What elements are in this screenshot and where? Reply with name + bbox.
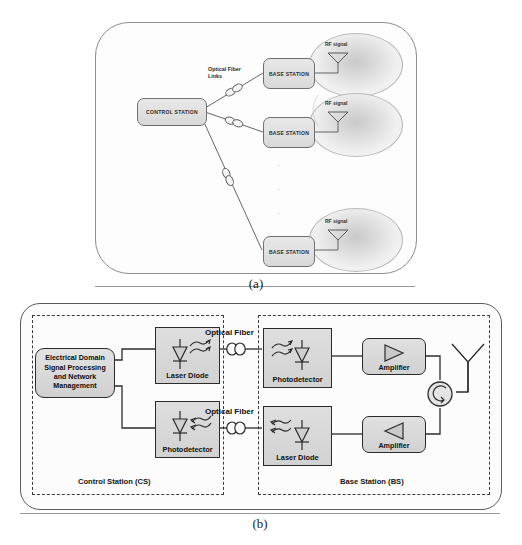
base-station-label: BASE STATION (269, 71, 309, 77)
base-station-label: BASE STATION (269, 249, 309, 255)
panel-a-link-layer (0, 0, 522, 300)
bs-laser-diode-block[interactable]: Laser Diode (263, 406, 332, 466)
edsp-line-4: Management (44, 382, 106, 391)
panel-b-wire-layer (0, 300, 522, 545)
panel-a-network-architecture: CONTROL STATION BASE STATION BASE STATIO… (0, 0, 522, 300)
amplifier-triangle-icon (363, 342, 425, 364)
edsp-line-2: Signal Processing (44, 364, 106, 373)
optical-fiber-label-bottom: Optical Fiber (205, 407, 254, 416)
fiber-spool-icon (221, 82, 244, 186)
edsp-line-3: and Network (44, 373, 106, 382)
optical-fiber-links-line-2: Links (208, 73, 241, 80)
bs-antenna-icon (452, 344, 484, 392)
optical-fiber-spool-icon-top (227, 343, 245, 355)
base-station-box-3[interactable]: BASE STATION (263, 236, 315, 267)
bs-laser-diode-label: Laser Diode (264, 453, 331, 462)
continuation-dot-1: · (277, 162, 280, 169)
amplifier-uplink-block[interactable]: Amplifier (362, 416, 426, 453)
panel-a-caption: (a) (236, 276, 276, 292)
optical-fiber-links-line-1: Optical Fiber (208, 66, 241, 73)
base-station-box-2[interactable]: BASE STATION (263, 117, 315, 148)
optical-fiber-spool-icon-bottom (227, 422, 245, 434)
bs-photodetector-label: Photodetector (264, 375, 331, 384)
amplifier-triangle-icon (363, 420, 425, 442)
continuation-dot-3: · (277, 210, 280, 217)
antenna-icon (328, 53, 348, 240)
edsp-line-1: Electrical Domain (44, 354, 106, 363)
laser-diode-symbol (264, 410, 331, 452)
rf-signal-label-3: RF signal (325, 218, 348, 224)
panel-b-cs-bs-link-block-diagram: Control Station (CS) Base Station (BS) (0, 300, 522, 545)
amplifier-downlink-label: Amplifier (363, 363, 425, 372)
control-station-label: CONTROL STATION (146, 109, 198, 115)
bs-photodetector-block[interactable]: Photodetector (263, 328, 332, 388)
rf-signal-label-2: RF signal (325, 100, 348, 106)
optical-fiber-links-label: Optical Fiber Links (208, 66, 241, 80)
photodetector-symbol (264, 332, 331, 374)
panel-b-bottom-rule (20, 513, 500, 514)
base-station-box-1[interactable]: BASE STATION (263, 58, 315, 89)
base-station-label: BASE STATION (269, 130, 309, 136)
panel-b-caption: (b) (240, 516, 280, 532)
electrical-domain-processing-block[interactable]: Electrical Domain Signal Processing and … (35, 348, 115, 398)
rf-signal-label-1: RF signal (325, 41, 348, 47)
optical-fiber-label-top: Optical Fiber (205, 328, 254, 337)
continuation-dot-2: · (277, 186, 280, 193)
amplifier-uplink-label: Amplifier (363, 441, 425, 450)
laser-diode-symbol (156, 331, 219, 371)
cs-photodetector-label: Photodetector (156, 445, 219, 454)
cs-laser-diode-label: Laser Diode (156, 371, 219, 380)
amplifier-downlink-block[interactable]: Amplifier (362, 338, 426, 375)
control-station-box[interactable]: CONTROL STATION (137, 98, 207, 126)
